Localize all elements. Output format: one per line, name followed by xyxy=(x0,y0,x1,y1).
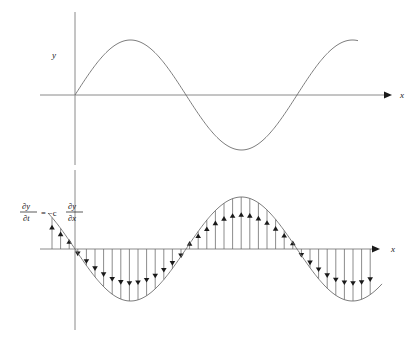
vector-arrowhead-up-icon xyxy=(49,225,55,230)
lower-x-axis-arrow-icon xyxy=(372,245,380,252)
vector-arrowhead-up-icon xyxy=(221,216,227,221)
vector-arrowhead-down-icon xyxy=(367,277,373,282)
vector-arrowhead-down-icon xyxy=(118,280,124,285)
vector-arrowhead-up-icon xyxy=(58,232,64,237)
vector-arrowhead-down-icon xyxy=(359,280,365,285)
vector-arrowhead-up-icon xyxy=(247,213,253,218)
time-derivative-panel xyxy=(40,170,382,330)
equation-denominator-right: ∂x xyxy=(68,213,76,223)
vector-arrowhead-down-icon xyxy=(101,272,107,277)
vector-arrowhead-down-icon xyxy=(350,281,356,286)
lower-x-axis-label: x xyxy=(390,244,395,254)
vector-arrowhead-down-icon xyxy=(135,281,141,286)
vector-arrowhead-down-icon xyxy=(170,261,176,266)
equation-relation: = −c xyxy=(41,208,57,218)
upper-y-axis-label: y xyxy=(51,50,56,60)
displacement-panel xyxy=(40,12,392,165)
vector-arrowhead-up-icon xyxy=(256,216,262,221)
vector-arrowhead-down-icon xyxy=(333,278,339,283)
vector-arrowhead-up-icon xyxy=(204,226,210,231)
upper-x-axis-label: x xyxy=(399,90,404,100)
equation-numerator-left: ∂y xyxy=(22,201,30,211)
vector-arrowhead-up-icon xyxy=(238,212,244,217)
vector-arrowhead-up-icon xyxy=(264,220,270,225)
vector-arrowhead-up-icon xyxy=(273,226,279,231)
vector-arrowhead-up-icon xyxy=(230,213,236,218)
vector-arrowhead-down-icon xyxy=(92,266,98,271)
equation-denominator-left: ∂t xyxy=(23,213,30,223)
vector-arrowhead-down-icon xyxy=(324,273,330,278)
vector-arrowhead-down-icon xyxy=(127,281,133,286)
upper-x-axis-arrow-icon xyxy=(384,91,392,98)
vector-arrowhead-down-icon xyxy=(109,277,115,282)
equation-numerator-right: ∂y xyxy=(68,201,76,211)
wave-equation-figure: y x x ∂y ∂t = −c ∂y ∂x xyxy=(0,0,415,346)
vector-arrowhead-down-icon xyxy=(152,274,158,279)
wave-equation-label: ∂y ∂t = −c ∂y ∂x xyxy=(20,201,83,223)
vector-arrowhead-down-icon xyxy=(144,278,150,283)
vector-arrowhead-down-icon xyxy=(316,268,322,273)
vector-arrowhead-up-icon xyxy=(213,221,219,226)
vector-arrowhead-down-icon xyxy=(161,268,167,273)
vector-arrowhead-down-icon xyxy=(342,280,348,285)
